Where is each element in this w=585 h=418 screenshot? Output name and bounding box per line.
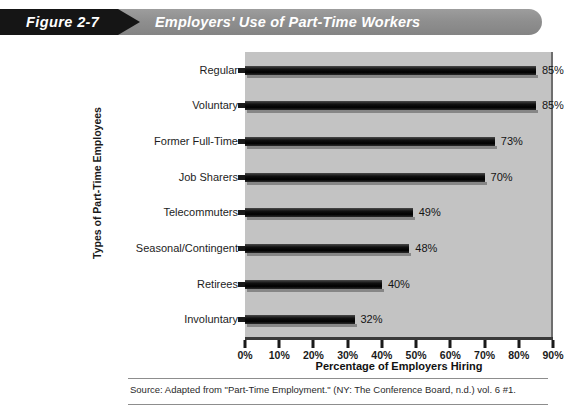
x-axis-tick-mark xyxy=(483,340,486,348)
source-divider-top xyxy=(128,378,548,379)
bar[interactable] xyxy=(245,280,382,289)
x-axis-tick-mark xyxy=(415,340,418,348)
y-axis-tick-mark xyxy=(238,103,245,108)
bar[interactable] xyxy=(245,208,413,217)
banner-arrow-icon xyxy=(118,9,140,35)
y-axis-tick-mark xyxy=(238,175,245,180)
y-axis-tick-mark xyxy=(238,282,245,287)
y-axis-tick-mark xyxy=(238,246,245,251)
bar-value-label: 32% xyxy=(361,315,383,324)
x-axis-tick-mark xyxy=(380,340,383,348)
y-axis-tick-labels: RegularVoluntaryFormer Full-TimeJob Shar… xyxy=(110,52,238,337)
bar-value-label: 48% xyxy=(415,244,437,253)
bar-value-label: 70% xyxy=(491,173,513,182)
x-axis-tick-mark xyxy=(346,340,349,348)
bar[interactable] xyxy=(245,173,485,182)
plot-area: 85%85%73%70%49%48%40%32% xyxy=(245,52,553,337)
bar-shadow xyxy=(247,324,357,327)
x-axis-tick-mark xyxy=(517,340,520,348)
figure-banner: Figure 2-7 Employers' Use of Part-Time W… xyxy=(0,9,542,35)
source-divider-bottom xyxy=(128,404,548,405)
figure-root: Figure 2-7 Employers' Use of Part-Time W… xyxy=(0,0,585,418)
bar-shadow xyxy=(247,146,497,149)
bar-value-label: 40% xyxy=(388,280,410,289)
figure-title: Employers' Use of Part-Time Workers xyxy=(155,9,420,35)
x-axis-tick-mark xyxy=(449,340,452,348)
bar-shadow xyxy=(247,289,384,292)
bar-value-label: 73% xyxy=(501,137,523,146)
y-axis-tick-label: Retirees xyxy=(197,278,238,290)
bar-value-label: 85% xyxy=(542,101,564,110)
y-axis-tick-label: Involuntary xyxy=(184,313,238,325)
y-axis-tick-label: Regular xyxy=(199,64,238,76)
figure-number-label: Figure 2-7 xyxy=(26,9,99,35)
bar-shadow xyxy=(247,217,415,220)
source-note: Source: Adapted from "Part-Time Employme… xyxy=(130,384,516,395)
bar[interactable] xyxy=(245,66,536,75)
y-axis-tick-label: Telecommuters xyxy=(163,206,238,218)
bar[interactable] xyxy=(245,101,536,110)
y-axis-tick-mark xyxy=(238,210,245,215)
y-axis-tick-mark xyxy=(238,68,245,73)
bar-shadow xyxy=(247,110,538,113)
bar[interactable] xyxy=(245,137,495,146)
bar-value-label: 85% xyxy=(542,66,564,75)
chart: Types of Part-Time Employees RegularVolu… xyxy=(0,44,585,374)
y-axis-tick-label: Seasonal/Contingent xyxy=(136,242,238,254)
x-axis-title: Percentage of Employers Hiring xyxy=(245,360,553,372)
bar-shadow xyxy=(247,182,487,185)
y-axis-tick-label: Job Sharers xyxy=(179,171,238,183)
x-axis-tick-mark xyxy=(552,340,555,348)
x-axis-tick-mark xyxy=(278,340,281,348)
x-axis-tick-mark xyxy=(312,340,315,348)
x-axis-tick-mark xyxy=(244,340,247,348)
bar-shadow xyxy=(247,75,538,78)
y-axis-tick-mark xyxy=(238,139,245,144)
bar[interactable] xyxy=(245,244,409,253)
bar-shadow xyxy=(247,253,411,256)
y-axis-tick-label: Former Full-Time xyxy=(154,135,238,147)
y-axis-tick-mark xyxy=(238,317,245,322)
bar[interactable] xyxy=(245,315,355,324)
y-axis-tick-label: Voluntary xyxy=(192,99,238,111)
bar-value-label: 49% xyxy=(419,208,441,217)
y-axis-title: Types of Part-Time Employees xyxy=(91,73,103,293)
